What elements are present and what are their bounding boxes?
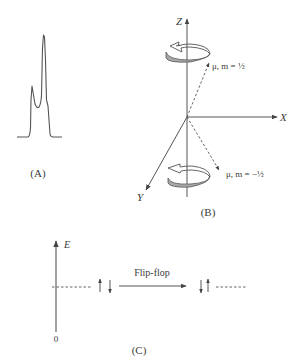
spectrum-trace [17, 35, 62, 137]
panel-a-label: (A) [30, 167, 46, 180]
flip-flop-label: Flip-flop [134, 267, 170, 278]
panel-c-label: (C) [132, 344, 147, 357]
y-axis [146, 117, 187, 190]
panel-c: E 0 Flip-flop (C) [52, 239, 246, 357]
upper-rotation-arrow-icon [166, 42, 210, 62]
x-axis-label: X [279, 111, 288, 123]
panel-b-label: (B) [201, 206, 216, 219]
upper-moment-vector [187, 63, 209, 117]
energy-axis-label: E [63, 239, 70, 250]
lower-rotation-arrow-icon [168, 164, 210, 187]
lower-state-label: μ, m = −½ [226, 169, 264, 179]
y-axis-label: Y [137, 191, 145, 203]
upper-state-label: μ, m = ½ [212, 61, 245, 71]
panel-b: Z X Y μ, m = ½ μ, m = −½ (B) [137, 15, 288, 219]
panel-a: (A) [17, 35, 62, 180]
lower-moment-vector [187, 117, 219, 170]
figure: (A) Z X Y μ, m = ½ μ, m = −½ [0, 0, 300, 360]
z-axis-label: Z [176, 15, 183, 27]
origin-label: 0 [54, 334, 59, 344]
